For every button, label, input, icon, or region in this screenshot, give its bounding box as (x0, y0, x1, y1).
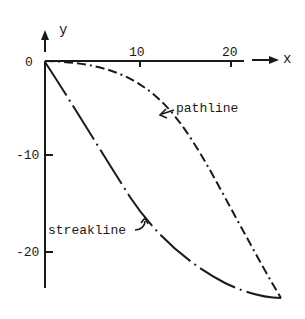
streakline-pointer-arrow (135, 221, 145, 230)
x-tick-label-20: 20 (222, 46, 238, 59)
x-axis-label: x (283, 53, 291, 66)
x-tick-label-10: 10 (129, 46, 145, 59)
y-axis-label: y (59, 24, 67, 37)
streakline-curve (45, 62, 281, 298)
streakline-annotation: streakline (48, 224, 126, 237)
pathline-curve (45, 61, 281, 298)
y-tick-label-10: -10 (16, 149, 39, 162)
y-tick-label-20: -20 (16, 246, 39, 259)
y-axis-arrowhead-icon (41, 30, 49, 40)
x-axis-arrowhead-icon (269, 56, 279, 64)
origin-label: 0 (25, 56, 33, 69)
pathline-annotation: pathline (176, 102, 238, 115)
chart-canvas (0, 0, 305, 319)
